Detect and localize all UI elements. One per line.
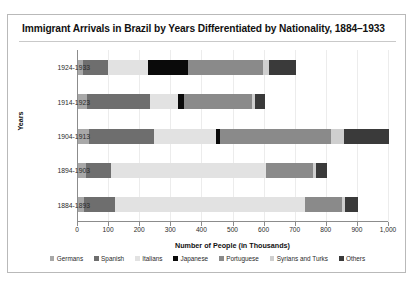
y-tick-label: 1914-1923: [57, 98, 90, 105]
y-axis-title: Years: [16, 111, 25, 130]
bar-segment: [111, 163, 267, 178]
legend-swatch-icon: [173, 256, 178, 261]
x-tick-label: 1,000: [380, 226, 397, 233]
bar-group: [78, 129, 389, 144]
bar-segment: [89, 129, 154, 144]
x-tick-label: 900: [351, 226, 362, 233]
bar-segment: [115, 197, 305, 212]
bar-segment: [345, 197, 357, 212]
bar-segment: [255, 94, 264, 109]
legend-item[interactable]: Spanish: [94, 255, 124, 262]
title-divider: [19, 41, 396, 42]
legend-swatch-icon: [270, 256, 275, 261]
legend-swatch-icon: [94, 256, 99, 261]
legend-item[interactable]: Syrians and Turks: [270, 255, 328, 262]
y-tick-label: 1924-1933: [57, 64, 90, 71]
y-tick-label: 1884-1893: [57, 201, 90, 208]
x-tick-label: 700: [289, 226, 300, 233]
legend-item[interactable]: Italians: [135, 255, 162, 262]
y-tick-label: 1904-1913: [57, 133, 90, 140]
bar-segment: [344, 129, 389, 144]
legend-label: Italians: [142, 255, 162, 262]
legend-label: Japanese: [180, 255, 208, 262]
bar-group: [78, 197, 389, 212]
chart-frame: Immigrant Arrivals in Brazil by Years Di…: [7, 14, 406, 273]
legend-swatch-icon: [50, 256, 55, 261]
bar-group: [78, 94, 389, 109]
legend-label: Spanish: [101, 255, 124, 262]
bar-group: [78, 163, 389, 178]
x-axis-title: Number of People (in Thousands): [77, 241, 388, 250]
bar-segment: [184, 94, 252, 109]
legend-label: Others: [346, 255, 365, 262]
x-tick-label: 600: [258, 226, 269, 233]
legend-swatch-icon: [135, 256, 140, 261]
legend-label: Germans: [57, 255, 83, 262]
bar-segment: [87, 94, 149, 109]
legend-item[interactable]: Portuguese: [219, 255, 259, 262]
chart-title: Immigrant Arrivals in Brazil by Years Di…: [22, 23, 402, 35]
x-tick-label: 300: [165, 226, 176, 233]
y-tick-label: 1894-1903: [57, 167, 90, 174]
x-tick-label: 200: [134, 226, 145, 233]
legend-item[interactable]: Others: [339, 255, 365, 262]
legend-swatch-icon: [339, 256, 344, 261]
bar-segment: [154, 129, 216, 144]
bar-segment: [220, 129, 332, 144]
x-tick-label: 800: [320, 226, 331, 233]
x-tick-label: 100: [103, 226, 114, 233]
bar-segment: [331, 129, 343, 144]
bar-segment: [305, 197, 342, 212]
chart-legend: GermansSpanishItaliansJapanesePortuguese…: [17, 255, 398, 262]
legend-item[interactable]: Germans: [50, 255, 83, 262]
bar-segment: [316, 163, 327, 178]
bar-segment: [148, 60, 188, 75]
legend-label: Portuguese: [226, 255, 259, 262]
bar-segment: [269, 60, 295, 75]
x-tick-label: 400: [196, 226, 207, 233]
plot-area: [77, 50, 388, 222]
bar-group: [78, 60, 389, 75]
legend-label: Syrians and Turks: [277, 255, 328, 262]
x-tick-label: 500: [227, 226, 238, 233]
bar-segment: [188, 60, 263, 75]
bar-segment: [150, 94, 178, 109]
legend-item[interactable]: Japanese: [173, 255, 208, 262]
legend-swatch-icon: [219, 256, 224, 261]
bar-segment: [108, 60, 148, 75]
x-tick-label: 0: [75, 226, 79, 233]
bar-segment: [266, 163, 313, 178]
